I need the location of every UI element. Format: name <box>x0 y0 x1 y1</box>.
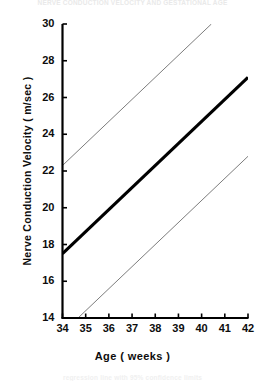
x-tick-label-35: 35 <box>75 322 97 334</box>
x-tick-label-39: 39 <box>167 322 189 334</box>
y-tick-label-30: 30 <box>33 17 55 29</box>
y-tick-label-18: 18 <box>33 238 55 250</box>
series-line-1 <box>63 24 212 165</box>
x-tick-label-40: 40 <box>191 322 213 334</box>
y-tick-label-20: 20 <box>33 201 55 213</box>
clipped-footer-text: regression line with 95% confidence limi… <box>0 374 265 381</box>
x-tick-label-41: 41 <box>214 322 236 334</box>
series-line-0 <box>63 77 249 253</box>
y-tick-label-28: 28 <box>33 54 55 66</box>
y-axis-title-text: Nerve Conduction Velocity ( m/sec ) <box>21 76 33 265</box>
y-tick-label-22: 22 <box>33 164 55 176</box>
x-tick-label-34: 34 <box>52 322 74 334</box>
x-tick-label-36: 36 <box>98 322 120 334</box>
y-tick-label-26: 26 <box>33 91 55 103</box>
y-tick-label-16: 16 <box>33 274 55 286</box>
data-series-group <box>63 24 249 318</box>
series-line-2 <box>78 156 248 318</box>
x-tick-label-37: 37 <box>121 322 143 334</box>
x-tick-label-38: 38 <box>144 322 166 334</box>
x-axis-title: Age ( weeks ) <box>0 350 265 362</box>
y-axis-title: Nerve Conduction Velocity ( m/sec ) <box>21 36 33 306</box>
y-tick-label-24: 24 <box>33 127 55 139</box>
x-axis-title-text: Age ( weeks ) <box>95 350 171 362</box>
x-tick-label-42: 42 <box>237 322 259 334</box>
